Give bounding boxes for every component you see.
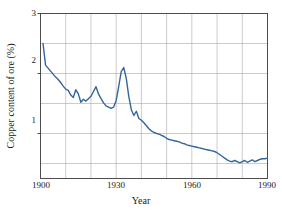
grid-lines xyxy=(41,14,268,179)
x-tick-label-1930: 1930 xyxy=(100,181,132,190)
x-axis-title: Year xyxy=(0,196,282,206)
vertical-grid-lines xyxy=(66,14,243,179)
y-axis-title: Copper content of ore (%) xyxy=(6,44,16,149)
plot-frame xyxy=(41,14,268,179)
y-tick-label-1: 1 xyxy=(22,116,36,125)
horizontal-grid-lines xyxy=(41,44,268,164)
x-tick-label-1960: 1960 xyxy=(176,181,208,190)
y-tick-label-2: 2 xyxy=(22,56,36,65)
x-tick-label-1990: 1990 xyxy=(251,181,282,190)
y-tick-label-3: 3 xyxy=(22,9,36,18)
x-tick-label-1900: 1900 xyxy=(25,181,57,190)
y-axis-title-container: Copper content of ore (%) xyxy=(2,0,20,192)
chart-figure: 3 2 1 1900 1930 1960 1990 Year Copper co… xyxy=(0,0,282,216)
